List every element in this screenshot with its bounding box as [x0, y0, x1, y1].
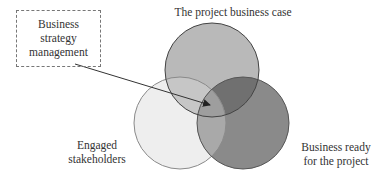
label-line: Engaged: [52, 138, 142, 152]
callout-line: strategy: [17, 31, 100, 45]
label-line: Business ready: [290, 140, 382, 154]
strategy-callout-box: Business strategy management: [16, 10, 101, 67]
callout-line: management: [17, 45, 100, 59]
strategy-callout-text: Business strategy management: [17, 17, 100, 59]
label-engaged-stakeholders: Engaged stakeholders: [52, 138, 142, 166]
label-line: stakeholders: [52, 152, 142, 166]
callout-line: Business: [17, 17, 100, 31]
label-business-ready: Business ready for the project: [290, 140, 382, 168]
label-line: for the project: [290, 154, 382, 168]
label-project-business-case: The project business case: [148, 5, 318, 19]
